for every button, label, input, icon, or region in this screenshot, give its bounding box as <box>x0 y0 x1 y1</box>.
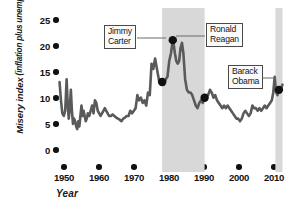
shaded-band-carter-reagan-term <box>162 8 204 172</box>
annotation-barack-obama: Barack Obama <box>228 65 263 89</box>
marker-carter-peak <box>169 36 177 44</box>
annotation-jimmy-carter-line2: Carter <box>108 37 132 47</box>
annotation-ronald-reagan: Ronald Reagan <box>206 23 243 47</box>
annotation-ronald-reagan-line2: Reagan <box>210 35 239 45</box>
marker-carter-start <box>158 78 166 86</box>
annotation-jimmy-carter: Jimmy Carter <box>104 25 136 49</box>
marker-obama <box>275 86 283 94</box>
marker-reagan-end <box>200 93 208 101</box>
annotation-barack-obama-line2: Obama <box>232 77 259 87</box>
misery-index-chart: Misery index (inflation plus unemploymen… <box>0 0 300 213</box>
plot-area <box>0 0 300 213</box>
